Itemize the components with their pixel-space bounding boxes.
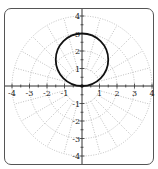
x-tick-label: -2	[43, 89, 51, 98]
grid-radial-line	[47, 25, 73, 70]
y-tick-label: 4	[75, 12, 80, 21]
grid-radial-line	[21, 95, 66, 121]
grid-radial-line	[87, 18, 101, 69]
x-tick-label: -1	[61, 89, 69, 98]
origin-point	[80, 84, 84, 88]
grid-radial-line	[87, 103, 101, 154]
x-tick-label: 3	[132, 89, 137, 98]
grid-radial-line	[99, 91, 150, 105]
grid-radial-line	[14, 91, 65, 105]
x-tick-label: 2	[114, 89, 119, 98]
grid-radial-line	[97, 95, 142, 121]
grid-radial-line	[91, 101, 117, 146]
y-tick-label: -4	[72, 152, 80, 161]
y-tick-label: 1	[75, 65, 80, 74]
y-tick-label: -1	[72, 100, 80, 109]
grid-radial-line	[64, 18, 78, 69]
y-tick-label: 2	[75, 47, 80, 56]
x-tick-label: -3	[26, 89, 34, 98]
polar-plot: -4-3-2-11234-4-3-2-11234	[0, 0, 158, 169]
x-tick-label: -4	[8, 89, 16, 98]
y-tick-label: -3	[72, 135, 80, 144]
grid-radial-line	[91, 25, 117, 70]
grid-radial-line	[47, 101, 73, 146]
x-tick-label: 4	[149, 89, 154, 98]
grid-radial-line	[64, 103, 78, 154]
x-tick-label: 1	[97, 89, 102, 98]
y-tick-label: -2	[72, 117, 80, 126]
